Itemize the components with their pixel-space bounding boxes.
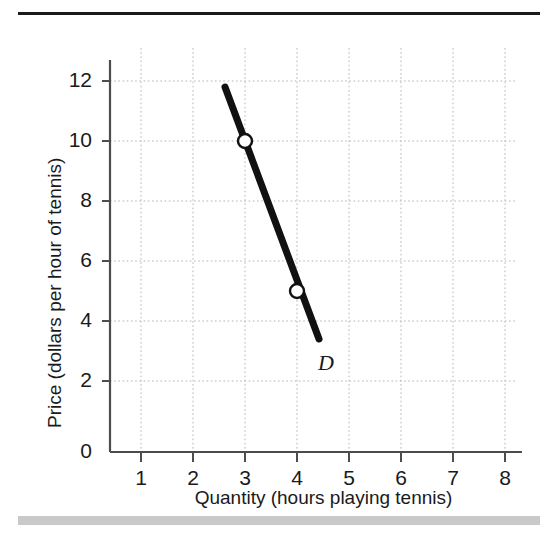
bottom-divider-bar: [18, 516, 540, 525]
y-axis: [102, 60, 110, 452]
data-point-marker: [238, 134, 252, 148]
y-origin-label: 0: [52, 439, 92, 463]
gridlines-vertical: [141, 48, 505, 452]
x-axis-title: Quantity (hours playing tennis): [0, 487, 555, 509]
x-axis: [110, 452, 522, 462]
figure-container: 12 10 8 6 4 2 0 1 2 3 4 5 6 7 8 Quantity…: [0, 0, 555, 546]
y-tick-label: 12: [52, 68, 92, 92]
demand-curve-line: [225, 87, 319, 339]
y-axis-title: Price (dollars per hour of tennis): [44, 158, 66, 428]
y-tick-label: 10: [52, 128, 92, 152]
demand-curve-label: D: [318, 350, 334, 376]
gridlines-horizontal: [110, 81, 516, 381]
data-point-marker: [290, 284, 304, 298]
